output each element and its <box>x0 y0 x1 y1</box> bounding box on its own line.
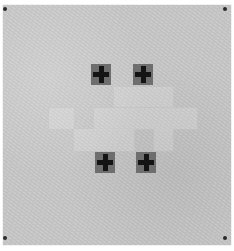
pin-icon <box>223 7 227 11</box>
pale-square <box>173 107 198 130</box>
pale-square <box>133 86 155 108</box>
black-cross-icon <box>136 152 156 173</box>
pale-square <box>73 128 115 152</box>
pin-icon <box>3 7 7 11</box>
black-cross-icon <box>91 64 111 85</box>
black-cross-icon <box>133 64 153 85</box>
pale-square <box>93 107 135 130</box>
pale-square <box>113 86 135 108</box>
pale-square <box>153 86 174 108</box>
pale-square <box>113 128 135 152</box>
black-cross-icon <box>95 152 115 173</box>
pin-icon <box>223 236 227 240</box>
pin-icon <box>3 236 7 240</box>
pale-square <box>48 107 75 130</box>
pale-square <box>153 128 174 152</box>
pale-square <box>133 107 175 130</box>
